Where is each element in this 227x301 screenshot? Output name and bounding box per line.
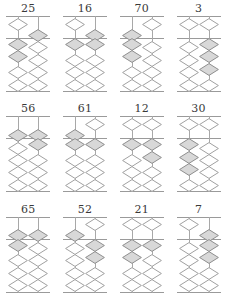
earth-bead-ones-1[interactable]	[142, 239, 162, 252]
heaven-bead-ones[interactable]	[199, 118, 219, 131]
earth-bead-tens-4[interactable]	[122, 279, 142, 292]
earth-bead-tens-4[interactable]	[65, 279, 85, 292]
earth-bead-tens-4[interactable]	[122, 179, 142, 192]
earth-bead-ones-1[interactable]	[28, 138, 48, 151]
earth-bead-ones-3[interactable]	[199, 267, 219, 280]
earth-bead-tens-4[interactable]	[179, 79, 199, 92]
earth-bead-tens-2[interactable]	[122, 154, 142, 167]
heaven-bead-ones[interactable]	[85, 118, 105, 131]
earth-bead-ones-2[interactable]	[199, 50, 219, 63]
earth-bead-ones-3[interactable]	[28, 66, 48, 79]
earth-bead-ones-3[interactable]	[199, 63, 219, 76]
earth-bead-ones-3[interactable]	[199, 166, 219, 179]
earth-bead-ones-1[interactable]	[142, 41, 162, 54]
earth-bead-ones-1[interactable]	[85, 138, 105, 151]
heaven-bead-tens[interactable]	[122, 118, 142, 131]
earth-bead-ones-4[interactable]	[142, 279, 162, 292]
earth-bead-tens-1[interactable]	[65, 138, 85, 151]
earth-bead-ones-1[interactable]	[28, 242, 48, 255]
earth-bead-tens-2[interactable]	[122, 251, 142, 264]
earth-bead-ones-2[interactable]	[142, 54, 162, 67]
earth-bead-tens-3[interactable]	[122, 66, 142, 79]
heaven-bead-tens[interactable]	[179, 218, 199, 231]
earth-bead-tens-4[interactable]	[65, 179, 85, 192]
earth-bead-ones-2[interactable]	[28, 154, 48, 167]
earth-bead-ones-3[interactable]	[85, 66, 105, 79]
earth-bead-tens-1[interactable]	[179, 41, 199, 54]
heaven-bead-tens[interactable]	[179, 118, 199, 131]
earth-bead-tens-3[interactable]	[8, 267, 28, 280]
earth-bead-ones-2[interactable]	[142, 254, 162, 267]
earth-bead-ones-4[interactable]	[199, 279, 219, 292]
earth-bead-ones-2[interactable]	[142, 151, 162, 164]
earth-bead-ones-1[interactable]	[199, 239, 219, 252]
heaven-bead-tens[interactable]	[65, 18, 85, 31]
earth-bead-tens-3[interactable]	[179, 163, 199, 176]
earth-bead-ones-1[interactable]	[28, 41, 48, 54]
earth-bead-ones-2[interactable]	[85, 154, 105, 167]
earth-bead-tens-4[interactable]	[8, 179, 28, 192]
earth-bead-tens-4[interactable]	[179, 279, 199, 292]
earth-bead-tens-2[interactable]	[65, 254, 85, 267]
earth-bead-ones-3[interactable]	[85, 166, 105, 179]
earth-bead-ones-4[interactable]	[28, 179, 48, 192]
earth-bead-tens-3[interactable]	[65, 66, 85, 79]
earth-bead-ones-4[interactable]	[199, 79, 219, 92]
earth-bead-ones-4[interactable]	[28, 79, 48, 92]
earth-bead-tens-2[interactable]	[8, 154, 28, 167]
earth-bead-ones-1[interactable]	[199, 38, 219, 51]
earth-bead-tens-4[interactable]	[122, 79, 142, 92]
earth-bead-ones-4[interactable]	[142, 79, 162, 92]
earth-bead-ones-3[interactable]	[142, 267, 162, 280]
earth-bead-ones-3[interactable]	[85, 267, 105, 280]
earth-bead-ones-2[interactable]	[28, 254, 48, 267]
earth-bead-ones-2[interactable]	[85, 251, 105, 264]
earth-bead-ones-4[interactable]	[85, 279, 105, 292]
earth-bead-tens-1[interactable]	[179, 242, 199, 255]
earth-bead-tens-1[interactable]	[65, 38, 85, 51]
earth-bead-tens-2[interactable]	[179, 151, 199, 164]
earth-bead-tens-4[interactable]	[8, 279, 28, 292]
earth-bead-ones-4[interactable]	[85, 179, 105, 192]
heaven-bead-tens[interactable]	[8, 18, 28, 31]
earth-bead-tens-2[interactable]	[65, 154, 85, 167]
heaven-bead-tens[interactable]	[65, 229, 85, 242]
earth-bead-tens-2[interactable]	[179, 54, 199, 67]
earth-bead-ones-4[interactable]	[142, 179, 162, 192]
heaven-bead-ones[interactable]	[199, 18, 219, 31]
earth-bead-tens-1[interactable]	[122, 138, 142, 151]
earth-bead-ones-3[interactable]	[142, 166, 162, 179]
earth-bead-tens-1[interactable]	[65, 242, 85, 255]
earth-bead-tens-2[interactable]	[65, 54, 85, 67]
earth-bead-ones-4[interactable]	[199, 179, 219, 192]
earth-bead-tens-1[interactable]	[179, 138, 199, 151]
earth-bead-tens-3[interactable]	[179, 267, 199, 280]
earth-bead-ones-1[interactable]	[142, 138, 162, 151]
heaven-bead-ones[interactable]	[85, 218, 105, 231]
earth-bead-tens-3[interactable]	[8, 166, 28, 179]
heaven-bead-tens[interactable]	[179, 18, 199, 31]
earth-bead-tens-1[interactable]	[122, 239, 142, 252]
earth-bead-tens-1[interactable]	[8, 142, 28, 155]
earth-bead-tens-4[interactable]	[179, 179, 199, 192]
earth-bead-tens-1[interactable]	[8, 239, 28, 252]
earth-bead-ones-4[interactable]	[28, 279, 48, 292]
earth-bead-tens-3[interactable]	[122, 267, 142, 280]
earth-bead-tens-2[interactable]	[8, 254, 28, 267]
earth-bead-ones-1[interactable]	[85, 239, 105, 252]
earth-bead-tens-1[interactable]	[8, 38, 28, 51]
earth-bead-tens-3[interactable]	[65, 166, 85, 179]
earth-bead-tens-2[interactable]	[179, 254, 199, 267]
earth-bead-tens-2[interactable]	[122, 50, 142, 63]
earth-bead-tens-3[interactable]	[65, 267, 85, 280]
earth-bead-ones-3[interactable]	[28, 166, 48, 179]
heaven-bead-ones[interactable]	[142, 118, 162, 131]
earth-bead-tens-2[interactable]	[8, 50, 28, 63]
earth-bead-ones-3[interactable]	[28, 267, 48, 280]
heaven-bead-ones[interactable]	[28, 29, 48, 42]
heaven-bead-ones[interactable]	[28, 229, 48, 242]
earth-bead-ones-1[interactable]	[199, 142, 219, 155]
heaven-bead-tens[interactable]	[8, 129, 28, 142]
earth-bead-ones-2[interactable]	[28, 54, 48, 67]
earth-bead-tens-3[interactable]	[122, 166, 142, 179]
